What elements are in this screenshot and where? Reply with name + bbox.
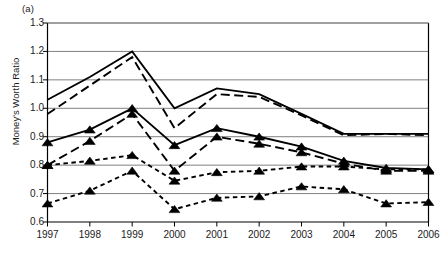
x-tick-label: 2006: [409, 229, 441, 240]
x-tick-label: 2000: [155, 229, 195, 240]
x-tick-label: 2005: [366, 229, 406, 240]
x-tick-label: 2004: [324, 229, 364, 240]
x-tick-label: 1999: [112, 229, 152, 240]
x-tick-label: 1998: [70, 229, 110, 240]
x-tick-label: 2001: [197, 229, 237, 240]
x-tick-label: 1997: [28, 229, 68, 240]
chart-figure: (a) Money's Worth Ratio 0.60.70.80.91.01…: [0, 0, 441, 255]
x-tick-labels: 1997199819992000200120022003200420052006: [0, 0, 441, 255]
x-tick-label: 2002: [239, 229, 279, 240]
x-tick-label: 2003: [282, 229, 322, 240]
